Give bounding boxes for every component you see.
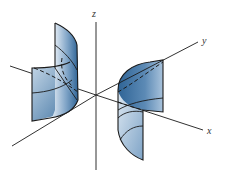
x-axis-label: x: [206, 125, 212, 136]
left-surface: [32, 23, 78, 121]
y-axis-label: y: [201, 35, 207, 46]
surface-diagram: z y x: [0, 0, 227, 177]
z-axis-label: z: [91, 8, 96, 19]
